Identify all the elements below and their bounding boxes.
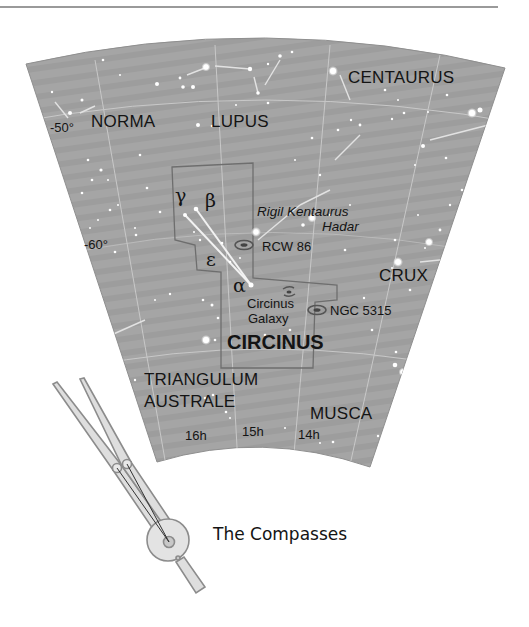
label-lupus: LUPUS bbox=[211, 113, 269, 130]
label-crux: CRUX bbox=[379, 267, 428, 284]
figure-caption: The Compasses bbox=[213, 526, 347, 543]
object-label-rcw86: RCW 86 bbox=[262, 240, 311, 253]
label-australe: AUSTRALE bbox=[144, 393, 235, 410]
label-centaurus: CENTAURUS bbox=[348, 69, 454, 86]
star-label-epsilon: ε bbox=[206, 250, 216, 269]
label-triangulum: TRIANGULUM bbox=[144, 371, 258, 388]
object-label-ngc5315: NGC 5315 bbox=[330, 304, 391, 317]
ra-label-14h: 14h bbox=[298, 428, 320, 441]
declination-label-minus60: -60° bbox=[84, 238, 108, 251]
object-label-circinus-galaxy-1: Circinus bbox=[247, 297, 294, 310]
label-circinus: CIRCINUS bbox=[227, 332, 324, 352]
ra-label-15h: 15h bbox=[242, 425, 264, 438]
star-label-alpha: α bbox=[233, 276, 246, 295]
star-label-rigil-kentaurus: Rigil Kentaurus bbox=[257, 205, 349, 219]
ra-label-16h: 16h bbox=[185, 429, 207, 442]
object-label-circinus-galaxy-2: Galaxy bbox=[248, 312, 288, 325]
label-norma: NORMA bbox=[91, 113, 155, 130]
label-musca: MUSCA bbox=[310, 405, 372, 422]
star-rigil-kentaurus bbox=[251, 227, 261, 237]
star-label-gamma: γ bbox=[175, 186, 186, 205]
star-label-beta: β bbox=[205, 191, 216, 210]
star-label-hadar: Hadar bbox=[322, 220, 359, 234]
declination-label-minus50: -50° bbox=[50, 121, 74, 134]
